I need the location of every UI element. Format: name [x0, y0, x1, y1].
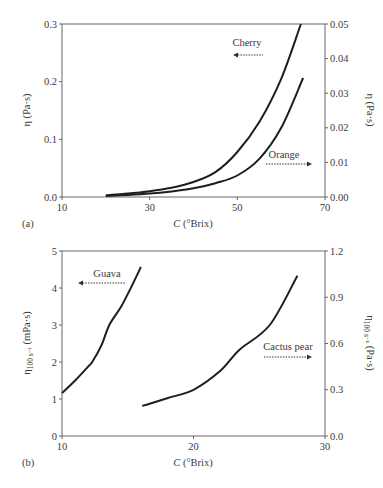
- y-tick-label: 0.00: [330, 192, 348, 203]
- x-tick-label: 70: [320, 202, 331, 213]
- y-axis-right-title: η (Pa·s): [364, 93, 376, 127]
- series-lines: [106, 24, 303, 196]
- arrow-right-icon: [266, 162, 312, 167]
- y-axis-right-title-unit: (Pa·s): [364, 343, 376, 371]
- y-axis-left-title-unit: (mPa·s): [21, 311, 33, 347]
- y-axis-right-title: η100 s⁻¹ (Pa·s): [362, 315, 376, 371]
- panel-a-chart: 10305070 0.00.10.20.3 0.000.010.020.030.…: [21, 19, 376, 231]
- orange-label: Orange: [269, 149, 300, 160]
- y-tick-label: 0.02: [330, 122, 348, 133]
- x-tick-label: 30: [144, 202, 155, 213]
- plot-frame: [62, 24, 325, 197]
- y-tick-label: 4: [52, 283, 58, 294]
- y-tick-label: 0.2: [44, 76, 57, 87]
- x-axis-ticks: 102030: [57, 436, 331, 452]
- x-tick-label: 50: [232, 202, 243, 213]
- y-axis-right-ticks: 0.00.30.60.91.2: [325, 246, 343, 442]
- y-tick-label: 0.05: [330, 19, 348, 30]
- figure: 10305070 0.00.10.20.3 0.000.010.020.030.…: [0, 0, 383, 488]
- y-tick-label: 0.04: [330, 53, 349, 64]
- y-tick-label: 0.9: [330, 292, 343, 303]
- x-axis-title-unit: (°Brix): [180, 457, 213, 469]
- y-tick-label: 0.0: [44, 192, 57, 203]
- y-axis-left-title-subscript: 100 s⁻¹: [26, 347, 35, 369]
- y-tick-label: 0.3: [330, 384, 343, 395]
- x-tick-label: 10: [57, 202, 68, 213]
- y-tick-label: 1: [52, 394, 57, 405]
- y-axis-left-ticks: 012345: [52, 246, 62, 442]
- y-tick-label: 1.2: [330, 246, 343, 257]
- x-tick-label: 20: [188, 441, 199, 452]
- y-tick-label: 0.1: [44, 134, 57, 145]
- y-tick-label: 0.03: [330, 88, 348, 99]
- x-tick-label: 30: [320, 441, 331, 452]
- y-axis-right-ticks: 0.000.010.020.030.040.05: [325, 19, 349, 203]
- y-tick-label: 0.01: [330, 157, 348, 168]
- y-axis-left-ticks: 0.00.10.20.3: [44, 19, 62, 203]
- y-tick-label: 0: [52, 431, 57, 442]
- panel-label: (b): [22, 457, 35, 469]
- cactus-pear-label: Cactus pear: [263, 341, 313, 352]
- series-line-cherry: [106, 24, 301, 195]
- y-axis-right-title-subscript: 100 s⁻¹: [362, 321, 371, 343]
- guava-label: Guava: [93, 268, 121, 279]
- y-axis-left-title: η100 s⁻¹ (mPa·s): [21, 311, 35, 375]
- y-tick-label: 2: [52, 357, 57, 368]
- x-tick-label: 10: [57, 441, 68, 452]
- panel-b-chart: 102030 012345 0.00.30.60.91.2 Guava Cact…: [21, 246, 376, 470]
- panel-label: (a): [22, 218, 34, 230]
- series-line-guava: [62, 267, 141, 393]
- x-axis-ticks: 10305070: [57, 197, 331, 213]
- y-tick-label: 0.3: [44, 19, 57, 30]
- x-axis-title: C (°Brix): [173, 218, 213, 230]
- arrow-right-icon: [264, 355, 312, 360]
- x-axis-title-unit: (°Brix): [180, 218, 213, 230]
- cherry-label: Cherry: [232, 37, 262, 48]
- y-tick-label: 0.6: [330, 338, 343, 349]
- series-lines: [62, 267, 297, 406]
- y-tick-label: 0.0: [330, 431, 343, 442]
- arrow-left-icon: [233, 53, 263, 58]
- y-tick-label: 5: [52, 246, 57, 257]
- arrow-left-icon: [78, 281, 126, 286]
- x-axis-title: C (°Brix): [173, 457, 213, 469]
- y-axis-left-title: η (Pa·s): [21, 93, 33, 127]
- y-tick-label: 3: [52, 320, 57, 331]
